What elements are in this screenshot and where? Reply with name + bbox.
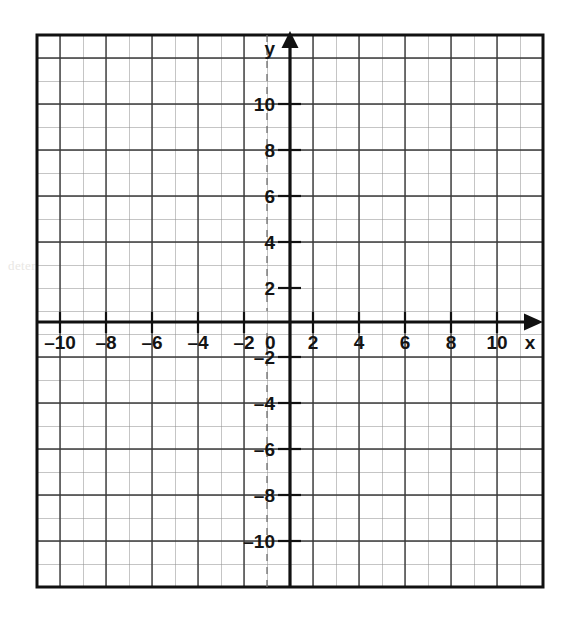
x-tick-label: 6 bbox=[400, 332, 411, 353]
x-tick-label: –10 bbox=[44, 332, 76, 353]
x-axis-label: x bbox=[525, 332, 536, 353]
y-axis-label: y bbox=[264, 38, 275, 59]
x-tick-label: –4 bbox=[187, 332, 209, 353]
y-tick-label: 2 bbox=[264, 278, 275, 299]
y-tick-label: –4 bbox=[254, 393, 276, 414]
x-tick-label: 10 bbox=[486, 332, 507, 353]
x-tick-label: 4 bbox=[354, 332, 365, 353]
origin-label: 0 bbox=[265, 332, 276, 353]
x-tick-label: –6 bbox=[141, 332, 162, 353]
x-tick-label: 2 bbox=[308, 332, 319, 353]
y-tick-label: 10 bbox=[254, 94, 275, 115]
graph-canvas: –10 –8 –6 –4 –2 2 4 6 8 10 10 8 6 4 2 –2… bbox=[0, 0, 570, 620]
x-tick-label: –8 bbox=[95, 332, 116, 353]
x-tick-label: 8 bbox=[446, 332, 457, 353]
y-tick-label: 6 bbox=[264, 186, 275, 207]
y-tick-label: –6 bbox=[254, 439, 275, 460]
coordinate-grid-figure: determine the slope and find the interce… bbox=[0, 0, 570, 620]
y-tick-label: 4 bbox=[264, 232, 275, 253]
y-tick-label: –10 bbox=[243, 531, 275, 552]
y-tick-label: –8 bbox=[254, 485, 275, 506]
y-tick-label: 8 bbox=[264, 140, 275, 161]
x-tick-label: –2 bbox=[233, 332, 254, 353]
